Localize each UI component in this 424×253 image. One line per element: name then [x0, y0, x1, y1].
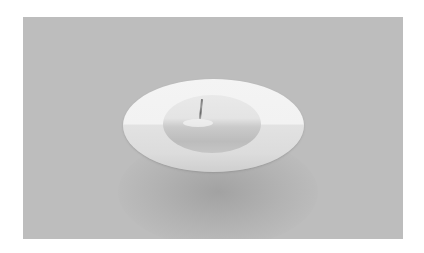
- dome-chip-highlight: [183, 119, 213, 127]
- photo-frame: [23, 17, 403, 239]
